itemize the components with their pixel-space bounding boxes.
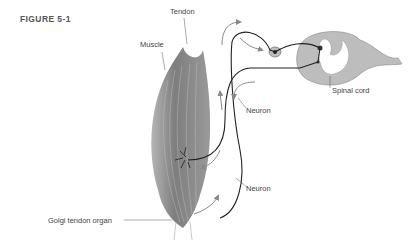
label-neuron-upper: Neuron <box>246 106 271 115</box>
spinal-cord <box>297 32 402 86</box>
label-muscle: Muscle <box>140 40 164 49</box>
label-tendon: Tendon <box>170 7 195 16</box>
label-golgi-tendon-organ: Golgi tendon organ <box>48 216 112 225</box>
reflex-diagram <box>0 0 409 242</box>
label-neuron-lower: Neuron <box>246 184 271 193</box>
label-spinal-cord: Spinal cord <box>332 86 370 95</box>
